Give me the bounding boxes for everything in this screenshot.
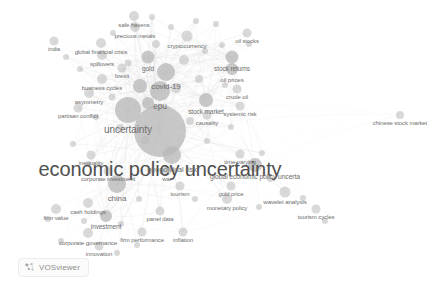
graph-node[interactable]: cryptocurrency [182, 31, 193, 42]
graph-node[interactable]: tourism [176, 182, 185, 191]
graph-node[interactable]: china [108, 175, 126, 193]
graph-node[interactable]: asymmetry [84, 88, 94, 98]
graph-node-unlabeled[interactable] [134, 242, 140, 248]
graph-node[interactable]: firm value [51, 204, 61, 214]
graph-node[interactable]: time-varying [236, 150, 245, 159]
graph-node-unlabeled[interactable] [109, 94, 116, 101]
graph-node-unlabeled[interactable] [116, 124, 124, 132]
graph-node-unlabeled[interactable] [213, 21, 219, 27]
graph-node[interactable]: inequality [87, 151, 96, 160]
graph-node[interactable]: causality [203, 111, 212, 120]
graph-node[interactable]: gold [142, 51, 155, 64]
network-graph[interactable]: economic policy uncertaintyuncertaintyep… [0, 0, 447, 292]
graph-node-unlabeled[interactable] [204, 138, 210, 144]
graph-node[interactable]: innovation [95, 242, 104, 251]
graph-node-unlabeled[interactable] [179, 55, 189, 65]
graph-node[interactable]: crude oil [233, 85, 242, 94]
graph-edge [48, 215, 106, 219]
graph-node[interactable]: safe havens [129, 11, 139, 21]
graph-node-unlabeled[interactable] [141, 136, 149, 144]
graph-node-unlabeled[interactable] [192, 196, 198, 202]
graph-node-unlabeled[interactable] [219, 42, 225, 48]
graph-node-unlabeled[interactable] [81, 218, 87, 224]
graph-node[interactable]: tourism cycles [312, 205, 321, 214]
graph-node-unlabeled[interactable] [85, 161, 91, 167]
graph-node[interactable]: epu [150, 81, 170, 101]
graph-node[interactable]: corporate governance [83, 228, 93, 238]
graph-node-unlabeled[interactable] [186, 117, 194, 125]
graph-node-unlabeled[interactable] [110, 30, 116, 36]
graph-node[interactable]: chinese stock market [396, 111, 404, 119]
graph-edge [180, 165, 255, 186]
graph-node[interactable]: oil stocks [243, 29, 252, 38]
graph-node-unlabeled[interactable] [256, 204, 262, 210]
graph-node-unlabeled[interactable] [222, 82, 228, 88]
vosviewer-watermark[interactable]: VOSviewer [18, 258, 89, 277]
graph-node[interactable]: partisan conflict [74, 104, 83, 113]
graph-node[interactable]: wavelet analysis [280, 187, 291, 198]
graph-node-unlabeled[interactable] [58, 238, 64, 244]
graph-node[interactable]: investment [100, 210, 112, 222]
graph-node[interactable]: global economic policy uncerta [248, 158, 262, 172]
vosviewer-watermark-label: VOSviewer [39, 263, 80, 272]
graph-node-unlabeled[interactable] [300, 195, 306, 201]
graph-node[interactable]: geopolitical risk [163, 146, 181, 164]
graph-node[interactable]: corporate investment [104, 167, 113, 176]
graph-node[interactable]: gold price [227, 182, 236, 191]
graph-node[interactable]: global financial crisis [96, 38, 106, 48]
vosviewer-network-canvas[interactable]: economic policy uncertaintyuncertaintyep… [0, 0, 447, 292]
graph-node-unlabeled[interactable] [125, 60, 132, 67]
graph-node-unlabeled[interactable] [136, 196, 142, 202]
graph-node[interactable]: systemic risk [236, 102, 245, 111]
graph-node[interactable]: oil prices [226, 63, 238, 75]
graph-node-unlabeled[interactable] [149, 14, 155, 20]
graph-node-unlabeled[interactable] [195, 75, 203, 83]
graph-node-unlabeled[interactable] [118, 221, 124, 227]
graph-node[interactable]: business cycles [97, 74, 107, 84]
graph-node-unlabeled[interactable] [77, 66, 83, 72]
graph-node[interactable]: spillovers [97, 50, 107, 60]
graph-node-unlabeled[interactable] [152, 40, 160, 48]
graph-node-unlabeled[interactable] [45, 216, 51, 222]
graph-node[interactable]: monetary policy [222, 194, 232, 204]
graph-node-unlabeled[interactable] [322, 218, 328, 224]
graph-node[interactable]: firm performance [138, 228, 147, 237]
graph-node-unlabeled[interactable] [259, 150, 265, 156]
graph-node-unlabeled[interactable] [193, 18, 199, 24]
graph-node-unlabeled[interactable] [267, 176, 273, 182]
graph-node[interactable]: india [50, 37, 59, 46]
graph-edge [255, 165, 303, 198]
graph-node[interactable]: stock returns [226, 51, 239, 64]
graph-node[interactable]: precious metals [130, 22, 140, 32]
graph-node[interactable]: war [163, 167, 172, 176]
graph-edge [148, 103, 400, 115]
graph-node[interactable]: uncertainty [115, 97, 141, 123]
graph-edge [172, 155, 183, 232]
graph-node-unlabeled[interactable] [63, 54, 69, 60]
graph-node-unlabeled[interactable] [114, 250, 120, 256]
graph-node[interactable]: cash holdings [83, 198, 93, 208]
graph-node[interactable]: panel data [156, 207, 165, 216]
graph-node-unlabeled[interactable] [246, 41, 252, 47]
vosviewer-logo-icon [24, 262, 35, 273]
graph-node-unlabeled[interactable] [70, 141, 76, 147]
graph-node[interactable]: stock market [199, 93, 213, 107]
graph-node-unlabeled[interactable] [228, 124, 234, 130]
graph-node-unlabeled[interactable] [133, 79, 147, 93]
graph-edge [172, 150, 240, 155]
graph-node-unlabeled[interactable] [202, 48, 208, 54]
graph-node-unlabeled[interactable] [171, 83, 181, 93]
graph-node-unlabeled[interactable] [168, 24, 174, 30]
graph-node-unlabeled[interactable] [93, 114, 99, 120]
graph-edge [183, 207, 259, 232]
graph-edge [160, 131, 316, 209]
graph-edge [255, 115, 400, 165]
graph-node-unlabeled[interactable] [142, 97, 154, 109]
graph-node[interactable]: inflation [179, 228, 188, 237]
graph-node[interactable]: covid-19 [157, 63, 175, 81]
